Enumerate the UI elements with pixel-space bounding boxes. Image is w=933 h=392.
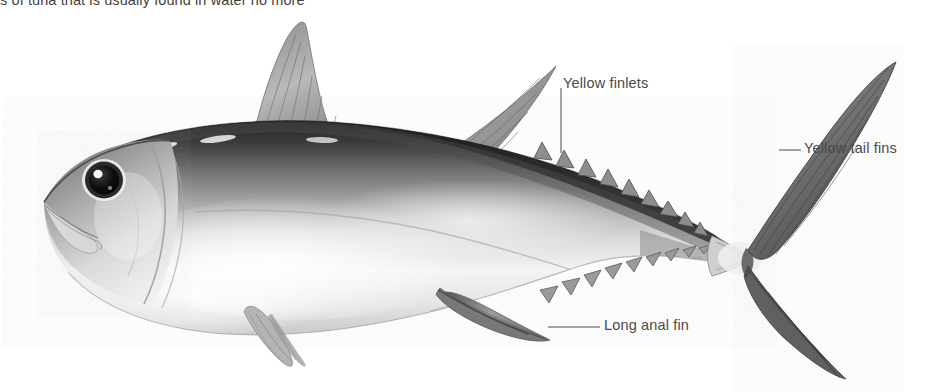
tuna-svg: [0, 0, 933, 392]
anal-fin: [436, 288, 550, 341]
callout-label-yellow-finlets: Yellow finlets: [563, 75, 648, 91]
eye: [82, 159, 126, 201]
tuna-head: [44, 139, 183, 308]
callout-label-long-anal-fin: Long anal fin: [604, 317, 689, 333]
tuna-illustration: [0, 0, 933, 392]
diagram-page: s of tuna that is usually found in water…: [0, 0, 933, 392]
caudal-fin: [742, 62, 897, 379]
callout-label-yellow-tail-fins: Yellow tail fins: [804, 140, 897, 156]
